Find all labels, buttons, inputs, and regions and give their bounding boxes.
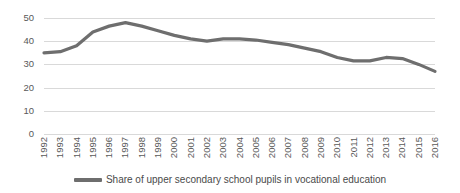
x-tick-label-1996: 1996 [104,137,114,158]
y-axis: 0 10 20 30 40 50 [0,0,40,193]
x-tick-label-2002: 2002 [202,137,212,158]
x-axis: 1992199319941995199619971998199920002001… [44,137,435,171]
x-tick-label-1993: 1993 [55,137,65,158]
y-tick-label-20: 20 [23,83,34,93]
legend: Share of upper secondary school pupils i… [0,174,460,185]
y-tick-label-40: 40 [23,36,34,46]
x-tick-label-2009: 2009 [316,137,326,158]
x-tick-label-2012: 2012 [365,137,375,158]
x-tick-label-2015: 2015 [414,137,424,158]
x-tick-label-2013: 2013 [381,137,391,158]
x-tick-label-1992: 1992 [39,137,49,158]
y-tick-label-0: 0 [29,129,34,139]
series-line-vocational-share [44,18,435,134]
x-tick-label-1997: 1997 [120,137,130,158]
x-tick-label-2010: 2010 [332,137,342,158]
x-tick-label-2004: 2004 [235,137,245,158]
x-tick-label-2000: 2000 [169,137,179,158]
line-chart: 0 10 20 30 40 50 19921993199419951996199… [0,0,460,193]
plot-area [44,18,435,134]
x-tick-label-2016: 2016 [430,137,440,158]
x-tick-label-1994: 1994 [72,137,82,158]
x-tick-label-1995: 1995 [88,137,98,158]
gridline-0 [44,134,435,135]
y-tick-label-30: 30 [23,60,34,70]
x-tick-label-2005: 2005 [251,137,261,158]
x-tick-label-2011: 2011 [349,137,359,157]
x-tick-label-2006: 2006 [267,137,277,158]
x-tick-label-2001: 2001 [186,137,196,158]
x-tick-label-1999: 1999 [153,137,163,158]
legend-item-label: Share of upper secondary school pupils i… [106,174,386,185]
y-tick-label-50: 50 [23,13,34,23]
legend-line-swatch-icon [74,178,102,182]
x-tick-label-1998: 1998 [137,137,147,158]
x-tick-label-2003: 2003 [218,137,228,158]
y-tick-label-10: 10 [23,106,34,116]
legend-item-vocational-share: Share of upper secondary school pupils i… [74,174,386,185]
x-tick-label-2008: 2008 [300,137,310,158]
x-tick-label-2014: 2014 [397,137,407,158]
x-tick-label-2007: 2007 [283,137,293,158]
